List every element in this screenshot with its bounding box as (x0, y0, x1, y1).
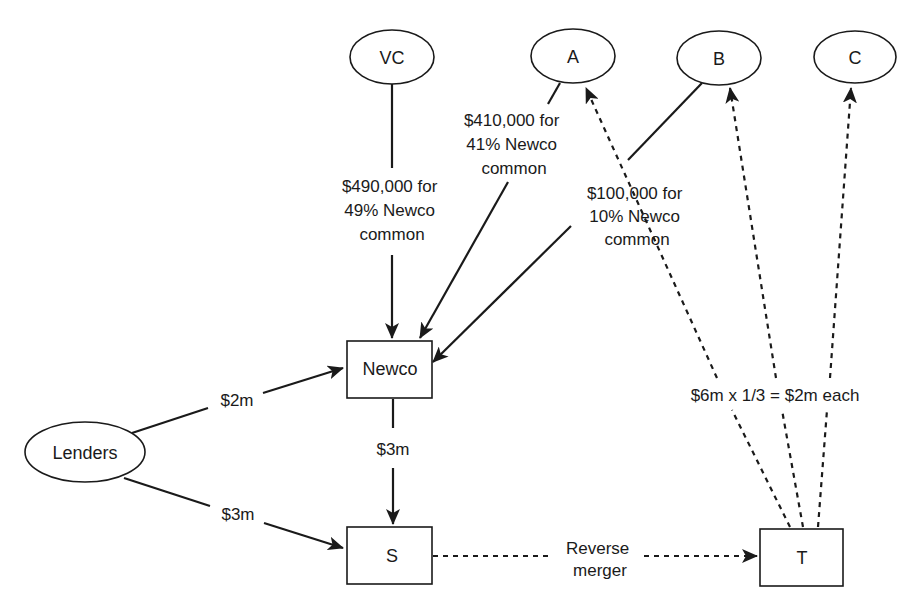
edge-label: $6m x 1/3 = $2m each (691, 386, 860, 405)
edge-vc-newco: $490,000 for 49% Newco common (342, 84, 442, 338)
node-label: T (797, 548, 808, 568)
edge-line (132, 408, 208, 433)
node-s: S (347, 527, 432, 584)
node-lenders: Lenders (25, 422, 145, 482)
edge-label: $3m (376, 440, 409, 459)
edge-t-abc: $6m x 1/3 = $2m each (586, 88, 859, 527)
edge-arrow (264, 523, 343, 548)
transaction-diagram: $490,000 for 49% Newco common $410,000 f… (0, 0, 917, 603)
edge-t-c-line (818, 410, 827, 527)
edge-lenders-s: $3m (124, 478, 343, 548)
node-label: Newco (362, 359, 417, 379)
edge-arrow (433, 226, 571, 362)
node-label: C (849, 48, 862, 68)
edge-t-b-line (782, 410, 803, 527)
edge-label: $2m (220, 391, 253, 410)
edge-t-a-line (732, 410, 790, 527)
edge-t-b-arrow (730, 88, 776, 378)
edge-t-c-arrow (830, 88, 851, 378)
node-a: A (531, 29, 615, 83)
node-c: C (814, 31, 896, 83)
edge-line (124, 478, 210, 506)
node-newco: Newco (347, 341, 432, 398)
edge-line (628, 83, 702, 160)
node-label: A (567, 47, 579, 67)
edge-lenders-newco: $2m (132, 368, 343, 433)
edge-a-newco: $410,000 for 41% Newco common (420, 83, 564, 338)
node-t: T (760, 529, 843, 586)
edge-s-t: Reverse merger (433, 539, 757, 580)
edge-label: $3m (221, 505, 254, 524)
edge-line (548, 83, 560, 104)
edge-label: Reverse merger (566, 539, 634, 580)
edge-label: $490,000 for 49% Newco common (342, 177, 442, 244)
node-b: B (677, 31, 761, 85)
edge-newco-s: $3m (376, 399, 409, 524)
edge-label: $100,000 for 10% Newco common (587, 184, 687, 249)
node-label: VC (379, 48, 404, 68)
node-label: S (386, 546, 398, 566)
node-label: B (713, 49, 725, 69)
edge-arrow (263, 368, 343, 393)
edge-label: $410,000 for 41% Newco common (464, 111, 564, 178)
node-vc: VC (350, 30, 434, 84)
node-label: Lenders (52, 443, 117, 463)
